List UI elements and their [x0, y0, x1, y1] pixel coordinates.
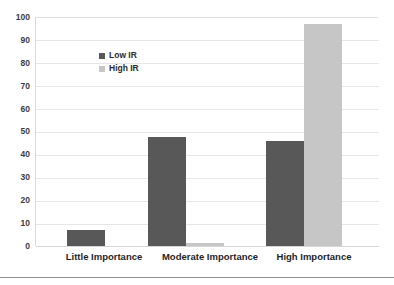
- y-axis-tick: 70: [0, 82, 30, 91]
- x-axis-label-high-importance: High Importance: [250, 252, 378, 262]
- legend-item-high-ir: High IR: [99, 63, 169, 74]
- legend-swatch-icon: [99, 66, 105, 72]
- bar-high-importance-high-ir: [304, 24, 342, 246]
- y-axis-tick: 80: [0, 59, 30, 68]
- bar-chart-figure: 100 90 80 70 60 50 40 30 20 10 0: [0, 0, 394, 285]
- bar-moderate-importance-high-ir: [186, 243, 224, 246]
- y-axis-tick: 20: [0, 196, 30, 205]
- legend-item-low-ir: Low IR: [99, 50, 169, 61]
- legend-item-label: High IR: [109, 64, 139, 73]
- y-axis-tick: 40: [0, 150, 30, 159]
- y-axis-tick: 60: [0, 105, 30, 114]
- bar-high-importance-low-ir: [266, 141, 304, 246]
- y-axis-tick: 30: [0, 173, 30, 182]
- chart-legend: Low IR High IR: [99, 50, 169, 76]
- y-axis-tick: 90: [0, 36, 30, 45]
- bar-little-importance-low-ir: [67, 230, 105, 246]
- legend-item-label: Low IR: [109, 51, 137, 60]
- y-axis-tick: 100: [0, 13, 30, 22]
- plot-area: [35, 17, 378, 246]
- y-axis-tick: 10: [0, 219, 30, 228]
- bar-moderate-importance-low-ir: [148, 137, 186, 246]
- bottom-divider: [0, 277, 394, 278]
- y-axis-tick: 0: [0, 242, 30, 251]
- legend-swatch-icon: [99, 53, 105, 59]
- y-axis-tick: 50: [0, 127, 30, 136]
- x-axis: Little Importance Moderate Importance Hi…: [35, 252, 378, 270]
- y-axis: 100 90 80 70 60 50 40 30 20 10 0: [0, 0, 33, 285]
- gridline-0: [36, 246, 379, 247]
